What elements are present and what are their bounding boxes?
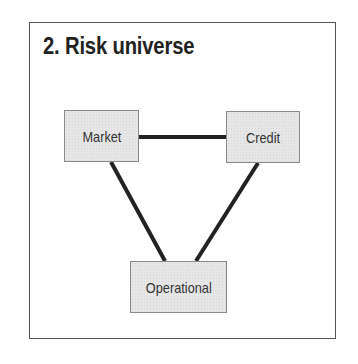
node-operational-label: Operational (146, 279, 212, 296)
node-operational: Operational (130, 261, 227, 313)
edge-credit-operational (196, 163, 258, 261)
node-credit: Credit (226, 111, 300, 163)
node-market: Market (64, 110, 139, 162)
edge-market-operational (111, 162, 165, 261)
node-credit-label: Credit (246, 129, 280, 146)
node-market-label: Market (82, 128, 121, 145)
